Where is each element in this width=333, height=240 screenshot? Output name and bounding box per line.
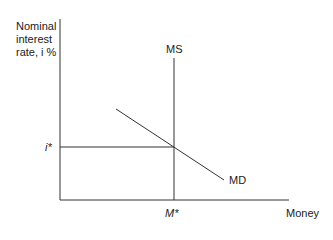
equilibrium-rate-label: i* [45,141,52,154]
y-axis-label-line-1: Nominal [16,20,56,33]
money-demand-label: MD [229,174,246,187]
money-demand-line [116,109,224,180]
equilibrium-quantity-label: M* [165,207,178,220]
y-axis-label-line-2: interest [16,33,56,46]
money-supply-label: MS [166,43,183,56]
x-axis-label: Money [286,207,319,220]
y-axis-label: Nominal interest rate, i % [16,20,56,59]
y-axis-label-line-3: rate, i % [16,46,56,59]
